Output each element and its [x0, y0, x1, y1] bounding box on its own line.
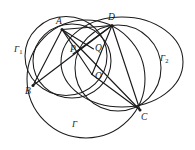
point-label-D: D: [108, 13, 115, 23]
vertex-B: [32, 84, 35, 87]
vertex-A: [61, 28, 64, 31]
point-label-O: O: [95, 72, 102, 82]
circle-label-gamma-2: Γ2: [160, 54, 168, 63]
circle-label-gamma: Γ: [72, 120, 77, 129]
chord-D-C: [112, 26, 140, 111]
point-label-C: C: [141, 113, 147, 123]
geometry-figure: A D B C P Q O Γ1 Γ2 Γ: [0, 0, 195, 150]
circle-gamma-1: [25, 17, 107, 96]
point-label-P: P: [70, 45, 76, 55]
circle-label-gamma-1: Γ1: [14, 45, 22, 54]
point-label-Q: Q: [95, 44, 102, 54]
circle-gamma: [27, 20, 145, 138]
circle-label-gamma-text: Γ: [72, 119, 77, 129]
vertex-D: [111, 24, 114, 27]
chord-A-B: [33, 30, 62, 86]
circle-label-gamma-2-sub: 2: [165, 57, 168, 64]
point-label-B: B: [25, 87, 31, 97]
circles-group: [25, 17, 183, 139]
circle-label-gamma-1-sub: 1: [19, 48, 22, 55]
point-label-A: A: [56, 17, 62, 27]
